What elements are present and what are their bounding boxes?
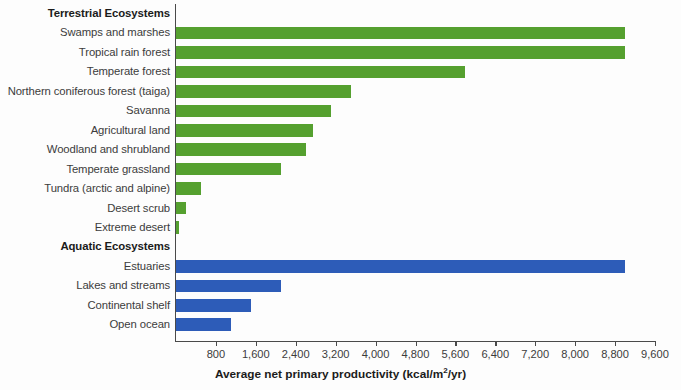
chart-row: Desert scrub bbox=[0, 199, 681, 218]
x-tick-label: 4,000 bbox=[362, 348, 390, 360]
bar-terrestrial bbox=[176, 202, 186, 215]
category-label: Temperate forest bbox=[0, 62, 170, 81]
x-tick bbox=[216, 341, 217, 346]
category-label: Tundra (arctic and alpine) bbox=[0, 179, 170, 198]
x-tick-label: 1,600 bbox=[242, 348, 270, 360]
chart-row: Agricultural land bbox=[0, 121, 681, 140]
category-label: Savanna bbox=[0, 101, 170, 120]
bar-track bbox=[176, 199, 655, 218]
x-tick-label: 7,200 bbox=[521, 348, 549, 360]
bar-aquatic bbox=[176, 280, 281, 293]
x-tick-label: 4,800 bbox=[402, 348, 430, 360]
bar-track bbox=[176, 315, 655, 334]
chart-row: Tundra (arctic and alpine) bbox=[0, 179, 681, 198]
chart-row: Extreme desert bbox=[0, 218, 681, 237]
bar-track bbox=[176, 257, 655, 276]
category-label: Agricultural land bbox=[0, 121, 170, 140]
x-tick bbox=[296, 341, 297, 346]
x-tick bbox=[256, 341, 257, 346]
bar-terrestrial bbox=[176, 124, 313, 137]
category-label: Open ocean bbox=[0, 315, 170, 334]
bar-track bbox=[176, 179, 655, 198]
bar-aquatic bbox=[176, 318, 231, 331]
chart-row: Temperate forest bbox=[0, 62, 681, 81]
category-label: Swamps and marshes bbox=[0, 23, 170, 42]
category-label: Tropical rain forest bbox=[0, 43, 170, 62]
category-label: Desert scrub bbox=[0, 199, 170, 218]
x-tick-label: 800 bbox=[207, 348, 226, 360]
x-tick bbox=[575, 341, 576, 346]
chart-row: Northern coniferous forest (taiga) bbox=[0, 82, 681, 101]
bar-track bbox=[176, 121, 655, 140]
chart-row: Continental shelf bbox=[0, 296, 681, 315]
bar-track bbox=[176, 62, 655, 81]
x-tick bbox=[416, 341, 417, 346]
bar-track bbox=[176, 23, 655, 42]
chart-row: Temperate grassland bbox=[0, 160, 681, 179]
x-tick-label: 5,600 bbox=[442, 348, 470, 360]
bar-track bbox=[176, 218, 655, 237]
x-tick bbox=[615, 341, 616, 346]
chart-row: Swamps and marshes bbox=[0, 23, 681, 42]
section-label: Terrestrial Ecosystems bbox=[0, 4, 170, 23]
section-label: Aquatic Ecosystems bbox=[0, 237, 170, 256]
x-tick-label: 6,400 bbox=[481, 348, 509, 360]
x-tick bbox=[535, 341, 536, 346]
bar-track bbox=[176, 101, 655, 120]
bar-terrestrial bbox=[176, 163, 281, 176]
bar-terrestrial bbox=[176, 27, 625, 40]
category-label: Estuaries bbox=[0, 257, 170, 276]
category-label: Woodland and shrubland bbox=[0, 140, 170, 159]
bar-track bbox=[176, 43, 655, 62]
x-tick-label: 2,400 bbox=[282, 348, 310, 360]
bar-terrestrial bbox=[176, 182, 201, 195]
bar-aquatic bbox=[176, 299, 251, 312]
bar-aquatic bbox=[176, 260, 625, 273]
bar-track bbox=[176, 140, 655, 159]
section-header-row: Terrestrial Ecosystems bbox=[0, 4, 681, 23]
x-tick-label: 8,800 bbox=[601, 348, 629, 360]
x-tick bbox=[376, 341, 377, 346]
x-tick bbox=[336, 341, 337, 346]
bar-track bbox=[176, 82, 655, 101]
category-label: Lakes and streams bbox=[0, 276, 170, 295]
chart-row: Tropical rain forest bbox=[0, 43, 681, 62]
x-tick-label: 8,000 bbox=[561, 348, 589, 360]
x-tick bbox=[455, 341, 456, 346]
bar-track bbox=[176, 160, 655, 179]
bar-terrestrial bbox=[176, 85, 351, 98]
x-tick-label: 3,200 bbox=[322, 348, 350, 360]
category-label: Extreme desert bbox=[0, 218, 170, 237]
bar-track bbox=[176, 276, 655, 295]
bar-track bbox=[176, 296, 655, 315]
chart-row: Savanna bbox=[0, 101, 681, 120]
x-axis-title-tail: /yr) bbox=[448, 367, 466, 381]
chart-row: Estuaries bbox=[0, 257, 681, 276]
bar-terrestrial bbox=[176, 46, 625, 59]
x-axis-title: Average net primary productivity (kcal/m… bbox=[0, 367, 681, 381]
bar-terrestrial bbox=[176, 221, 179, 234]
chart-figure: 8001,6002,4003,2004,0004,8005,6006,4007,… bbox=[0, 0, 681, 390]
category-label: Temperate grassland bbox=[0, 160, 170, 179]
x-tick bbox=[655, 341, 656, 346]
x-tick-label: 9,600 bbox=[641, 348, 669, 360]
section-header-row: Aquatic Ecosystems bbox=[0, 237, 681, 256]
bar-terrestrial bbox=[176, 105, 331, 118]
category-label: Continental shelf bbox=[0, 296, 170, 315]
chart-row: Woodland and shrubland bbox=[0, 140, 681, 159]
x-axis-title-main: Average net primary productivity (kcal/m bbox=[215, 367, 443, 381]
bar-terrestrial bbox=[176, 66, 465, 79]
chart-row: Open ocean bbox=[0, 315, 681, 334]
category-label: Northern coniferous forest (taiga) bbox=[0, 82, 170, 101]
chart-row: Lakes and streams bbox=[0, 276, 681, 295]
bar-terrestrial bbox=[176, 143, 306, 156]
x-tick bbox=[495, 341, 496, 346]
